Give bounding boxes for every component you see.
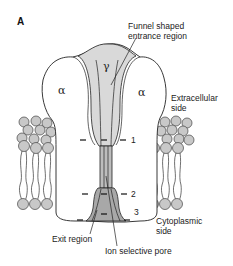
ion-pore-label: Ion selective pore	[105, 246, 172, 256]
extracellular-label-line2: side	[171, 103, 187, 113]
alpha-subunit-right-label: α	[138, 86, 146, 99]
alpha-subunit-left-label: α	[58, 84, 66, 97]
ion-channel-diagram: A	[0, 0, 233, 266]
funnel-label-line1: Funnel shaped	[128, 21, 185, 31]
lipid-bilayer-left	[17, 116, 56, 210]
cytoplasmic-label-line2: side	[156, 226, 172, 236]
ring-marker-3: 3	[134, 207, 139, 217]
lipid-heads-upper-left	[17, 116, 56, 154]
funnel-label-line2: entrance region	[128, 31, 187, 41]
gamma-subunit-label: γ	[103, 60, 110, 73]
cytoplasmic-label-line1: Cytoplasmic	[156, 216, 203, 226]
pore-channel	[100, 146, 112, 188]
ring-marker-1: 1	[131, 135, 136, 145]
ring-marker-2: 2	[131, 189, 136, 199]
lipid-tails-left	[19, 151, 51, 200]
lipid-heads-lower-left	[18, 199, 53, 210]
exit-region-label: Exit region	[52, 234, 92, 244]
panel-label: A	[17, 16, 24, 27]
extracellular-label-line1: Extracellular	[171, 93, 218, 103]
